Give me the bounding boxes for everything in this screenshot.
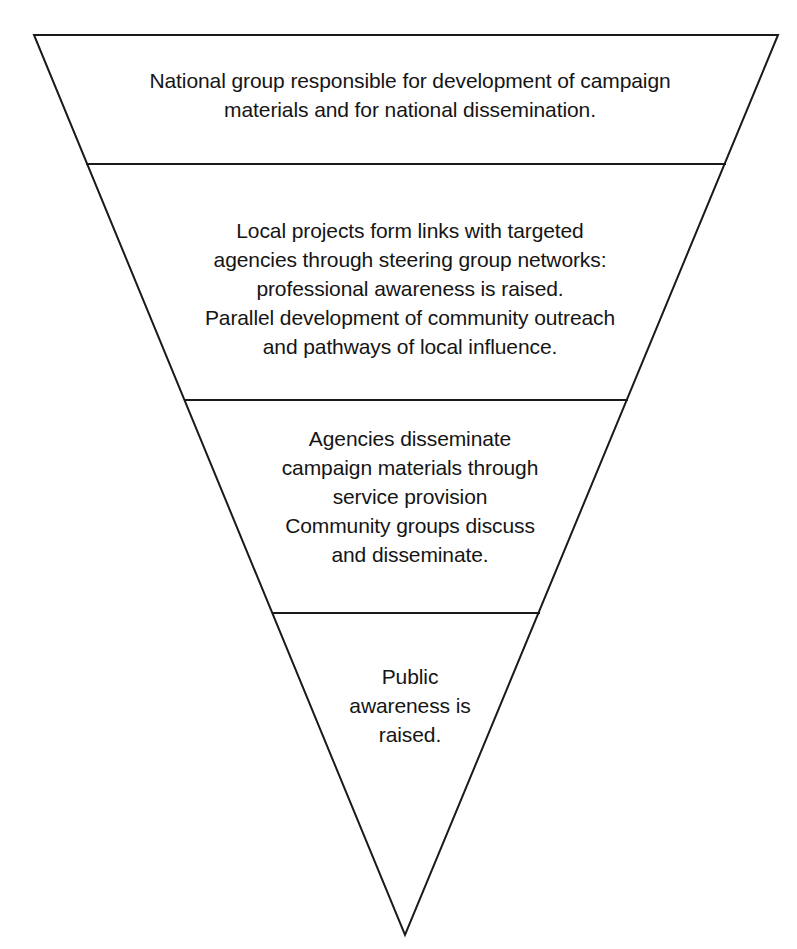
tier-2-label: Local projects form links with targeted …: [140, 216, 680, 361]
tier-1-label: National group responsible for developme…: [100, 66, 720, 124]
tier-4-label: Public awareness is raised.: [270, 662, 550, 749]
tier-3-label: Agencies disseminate campaign materials …: [190, 424, 630, 569]
funnel-diagram: National group responsible for developme…: [0, 0, 797, 949]
